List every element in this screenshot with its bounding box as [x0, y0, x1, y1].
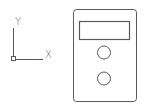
device-button-1 [98, 46, 111, 59]
device-display [80, 22, 130, 40]
device-body [74, 10, 137, 102]
device-drawing [74, 10, 137, 102]
ucs-icon [12, 28, 44, 61]
y-axis-label: Y [15, 16, 21, 27]
origin-box-icon [12, 57, 16, 61]
x-axis-label: X [45, 49, 52, 60]
device-button-2 [98, 72, 111, 85]
drawing-canvas: Y X [0, 0, 146, 109]
